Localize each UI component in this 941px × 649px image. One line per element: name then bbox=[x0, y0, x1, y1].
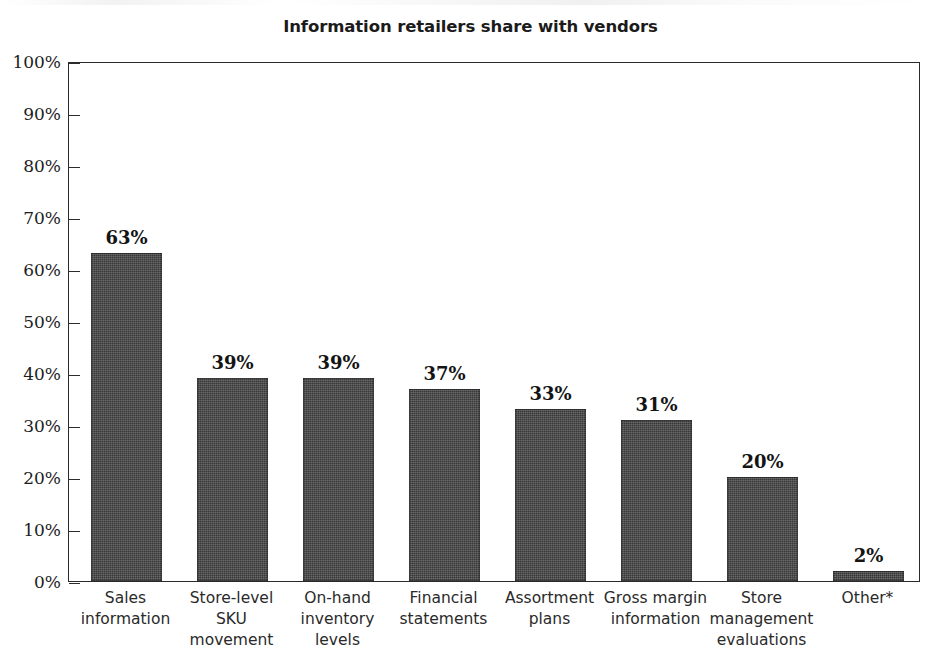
y-axis-tick bbox=[69, 271, 80, 272]
x-axis-category-label: Gross margin information bbox=[596, 588, 715, 630]
y-axis-tick-label: 60% bbox=[0, 260, 61, 280]
bar bbox=[197, 378, 268, 581]
y-axis-tick bbox=[69, 427, 80, 428]
bar bbox=[727, 477, 798, 581]
bar bbox=[303, 378, 374, 581]
y-axis-tick bbox=[69, 583, 80, 584]
x-axis-category-label: On-hand inventory levels bbox=[278, 588, 397, 649]
y-axis-tick bbox=[69, 115, 80, 116]
y-axis-tick bbox=[69, 375, 80, 376]
x-axis-category-label: Other* bbox=[808, 588, 927, 609]
bar bbox=[833, 571, 904, 581]
plot-area: 100%90%80%70%60%50%40%30%20%10%0% 63%39%… bbox=[68, 62, 920, 582]
y-axis-tick-label: 40% bbox=[0, 364, 61, 384]
bar-value-label: 37% bbox=[395, 363, 494, 384]
x-axis-category-label: Sales information bbox=[66, 588, 185, 630]
y-axis-tick-label: 20% bbox=[0, 468, 61, 488]
x-axis-category-label: Assortment plans bbox=[490, 588, 609, 630]
bar-value-label: 63% bbox=[77, 227, 176, 248]
bar-value-label: 33% bbox=[501, 383, 600, 404]
bar bbox=[515, 409, 586, 581]
x-axis-category-label: Financial statements bbox=[384, 588, 503, 630]
bar-value-label: 39% bbox=[289, 352, 388, 373]
bar-value-label: 20% bbox=[713, 451, 812, 472]
y-axis-tick bbox=[69, 479, 80, 480]
x-axis-category-label: Store-level SKU movement bbox=[172, 588, 291, 649]
chart-title: Information retailers share with vendors bbox=[0, 17, 941, 36]
y-axis-tick-label: 30% bbox=[0, 416, 61, 436]
bar-value-label: 2% bbox=[819, 545, 918, 566]
y-axis-tick bbox=[69, 219, 80, 220]
y-axis-tick bbox=[69, 167, 80, 168]
y-axis-tick-label: 90% bbox=[0, 104, 61, 124]
y-axis-tick-label: 70% bbox=[0, 208, 61, 228]
bar bbox=[91, 253, 162, 581]
scan-artifact-band bbox=[0, 0, 941, 5]
bar bbox=[621, 420, 692, 581]
bar-value-label: 39% bbox=[183, 352, 282, 373]
bar bbox=[409, 389, 480, 581]
bar-value-label: 31% bbox=[607, 394, 706, 415]
y-axis-tick bbox=[69, 531, 80, 532]
y-axis-tick-label: 80% bbox=[0, 156, 61, 176]
y-axis-tick bbox=[69, 63, 80, 64]
y-axis-tick bbox=[69, 323, 80, 324]
y-axis-tick-label: 100% bbox=[0, 52, 61, 72]
y-axis-tick-label: 50% bbox=[0, 312, 61, 332]
y-axis-tick-label: 0% bbox=[0, 572, 61, 592]
y-axis-tick-label: 10% bbox=[0, 520, 61, 540]
x-axis-category-label: Store management evaluations bbox=[702, 588, 821, 649]
